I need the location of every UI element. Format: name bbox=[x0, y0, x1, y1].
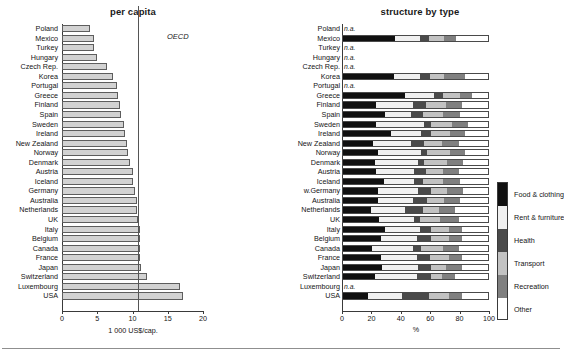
right-category-label: Belgium bbox=[292, 234, 340, 244]
right-plot-area: n.a.n.a.n.a.n.a.n.a.n.a. bbox=[342, 24, 489, 311]
stack-segment-recreation bbox=[449, 255, 462, 260]
stack-segment-transport bbox=[431, 236, 448, 241]
stack-segment-rent-furniture bbox=[395, 36, 420, 41]
stack-segment-transport bbox=[429, 293, 449, 298]
right-category-label: Hungary bbox=[292, 53, 340, 63]
stack-segment-transport bbox=[424, 141, 441, 146]
stack-segment-recreation bbox=[444, 198, 460, 203]
oecd-reference-line bbox=[138, 6, 139, 311]
stack-segment-food-clothing bbox=[343, 198, 378, 203]
stack-segment-rent-furniture bbox=[375, 160, 419, 165]
right-tick-label: 80 bbox=[448, 314, 472, 323]
stack-segment-transport bbox=[429, 36, 445, 41]
stack-segment-health bbox=[405, 207, 422, 212]
stack-segment-recreation bbox=[449, 227, 462, 232]
stack-segment-food-clothing bbox=[343, 265, 382, 270]
stack-segment-recreation bbox=[450, 131, 465, 136]
na-marker: n.a. bbox=[344, 282, 355, 292]
stack-segment-rent-furniture bbox=[378, 188, 419, 193]
right-category-label: Sweden bbox=[292, 120, 340, 130]
left-category-label: Netherlands bbox=[0, 205, 58, 215]
stack-segment-other bbox=[462, 236, 488, 241]
per-capita-bar bbox=[62, 283, 180, 290]
per-capita-bar bbox=[62, 149, 128, 156]
stack-segment-food-clothing bbox=[343, 217, 379, 222]
legend-label: Food & clothing bbox=[514, 190, 564, 199]
left-category-label: Poland bbox=[0, 24, 58, 34]
stack-segment-food-clothing bbox=[343, 293, 368, 298]
stack-segment-rent-furniture bbox=[382, 265, 418, 270]
legend-swatch bbox=[498, 298, 507, 320]
stack-segment-rent-furniture bbox=[381, 255, 417, 260]
stack-segment-other bbox=[462, 102, 488, 107]
stack-segment-transport bbox=[431, 131, 450, 136]
per-capita-bar bbox=[62, 121, 124, 128]
left-tick-label: 15 bbox=[156, 314, 180, 323]
left-category-label: UK bbox=[0, 215, 58, 225]
stack-segment-other bbox=[462, 265, 488, 270]
stack-segment-other bbox=[459, 169, 488, 174]
stack-segment-food-clothing bbox=[343, 36, 395, 41]
stack-segment-other bbox=[460, 179, 488, 184]
per-capita-bar bbox=[62, 140, 127, 147]
stack-segment-recreation bbox=[443, 246, 459, 251]
left-category-label: Korea bbox=[0, 72, 58, 82]
legend-label: Recreation bbox=[514, 282, 549, 291]
stack-segment-transport bbox=[431, 188, 447, 193]
stack-segment-other bbox=[465, 131, 488, 136]
structure-stacked-bar bbox=[342, 264, 489, 271]
stack-segment-recreation bbox=[444, 74, 464, 79]
left-category-label: Switzerland bbox=[0, 272, 58, 282]
stack-segment-health bbox=[417, 274, 432, 279]
left-category-label: Czech Rep. bbox=[0, 62, 58, 72]
stack-segment-food-clothing bbox=[343, 150, 378, 155]
left-category-label: Greece bbox=[0, 91, 58, 101]
stack-segment-rent-furniture bbox=[385, 227, 420, 232]
stack-segment-other bbox=[459, 246, 488, 251]
per-capita-bar bbox=[62, 226, 140, 233]
stack-segment-health bbox=[417, 255, 430, 260]
right-category-label: Denmark bbox=[292, 158, 340, 168]
right-category-label: France bbox=[292, 253, 340, 263]
right-category-label: Iceland bbox=[292, 177, 340, 187]
stack-segment-food-clothing bbox=[343, 122, 376, 127]
left-plot-area bbox=[62, 24, 203, 311]
per-capita-bar bbox=[62, 82, 117, 89]
stack-segment-health bbox=[420, 36, 429, 41]
stack-segment-health bbox=[421, 131, 431, 136]
na-marker: n.a. bbox=[344, 24, 355, 34]
per-capita-bar bbox=[62, 206, 137, 213]
legend-swatch bbox=[498, 183, 507, 206]
left-tick-label: 0 bbox=[50, 314, 74, 323]
stack-segment-recreation bbox=[443, 169, 459, 174]
right-category-label: Canada bbox=[292, 244, 340, 254]
stack-segment-transport bbox=[421, 246, 443, 251]
per-capita-bar bbox=[62, 254, 140, 261]
stack-segment-health bbox=[418, 265, 431, 270]
stack-segment-other bbox=[462, 255, 488, 260]
right-tick-label: 60 bbox=[418, 314, 442, 323]
per-capita-bar bbox=[62, 25, 90, 32]
stack-segment-rent-furniture bbox=[376, 169, 414, 174]
stack-segment-transport bbox=[424, 160, 447, 165]
left-category-label: Ireland bbox=[0, 129, 58, 139]
stack-segment-food-clothing bbox=[343, 169, 376, 174]
right-category-label: Czech Rep. bbox=[292, 62, 340, 72]
left-category-label: New Zealand bbox=[0, 139, 58, 149]
right-category-label: Spain bbox=[292, 110, 340, 120]
legend-label: Rent & furniture bbox=[514, 213, 564, 222]
left-category-label: Hungary bbox=[0, 53, 58, 63]
legend-swatch bbox=[498, 275, 507, 298]
structure-stacked-bar bbox=[342, 254, 489, 261]
left-chart-title: per capita bbox=[62, 6, 204, 17]
stack-segment-transport bbox=[430, 255, 449, 260]
stack-segment-health bbox=[424, 122, 431, 127]
right-x-axis bbox=[342, 311, 490, 312]
right-tick-label: 20 bbox=[359, 314, 383, 323]
stack-segment-health bbox=[414, 179, 423, 184]
stack-segment-health bbox=[420, 74, 430, 79]
stack-segment-food-clothing bbox=[343, 131, 391, 136]
right-category-label: Austria bbox=[292, 167, 340, 177]
per-capita-bar bbox=[62, 292, 183, 299]
stack-segment-other bbox=[460, 112, 488, 117]
